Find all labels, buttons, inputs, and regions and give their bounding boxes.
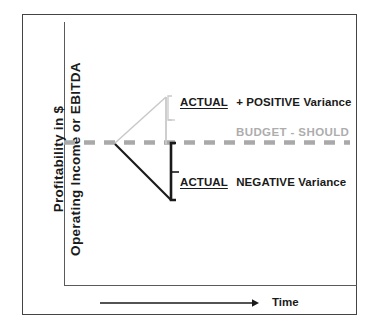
positive-variance-label: ACTUAL + POSITIVE Variance <box>180 96 352 108</box>
positive-variance-text: + POSITIVE Variance <box>236 96 351 108</box>
y-axis-title-line-1: Profitability in $ <box>50 14 67 304</box>
budget-line-label: BUDGET - SHOULD <box>236 126 349 138</box>
negative-variance-text: NEGATIVE Variance <box>236 176 346 188</box>
x-axis-title: Time <box>272 296 299 308</box>
chart-canvas: Profitability in $ Operating Income or E… <box>0 0 376 331</box>
negative-variance-label: ACTUAL NEGATIVE Variance <box>180 176 346 188</box>
y-axis-title: Profitability in $ Operating Income or E… <box>50 14 84 304</box>
budget-reference-line <box>64 140 350 145</box>
actual-tag-positive: ACTUAL <box>180 96 228 108</box>
actual-tag-negative: ACTUAL <box>180 176 228 188</box>
x-axis-line <box>64 285 357 286</box>
y-axis-title-line-2: Operating Income or EBITDA <box>67 14 84 304</box>
